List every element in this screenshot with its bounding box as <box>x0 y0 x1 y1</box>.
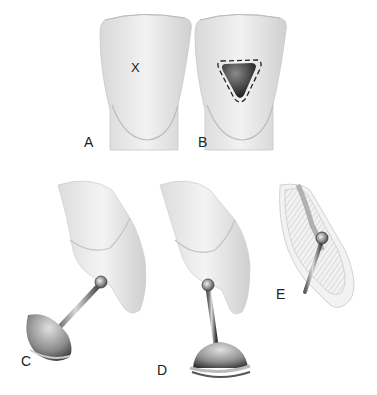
access-point-marker: X <box>131 60 140 75</box>
handpiece-head-d <box>193 342 248 368</box>
bur-e <box>316 232 328 244</box>
label-a: A <box>84 134 93 150</box>
panel-c <box>26 181 145 361</box>
label-b: B <box>198 134 207 150</box>
label-d: D <box>157 362 167 378</box>
label-e: E <box>276 286 285 302</box>
dental-access-figure: X A B C D E <box>0 0 377 395</box>
label-c: C <box>21 353 31 369</box>
illustration <box>0 0 377 395</box>
bur-c <box>95 276 107 288</box>
panel-b-tooth <box>195 14 286 150</box>
bur-d <box>202 279 214 291</box>
panel-a-tooth <box>100 14 191 150</box>
panel-d <box>160 181 250 377</box>
panel-e <box>280 184 354 307</box>
